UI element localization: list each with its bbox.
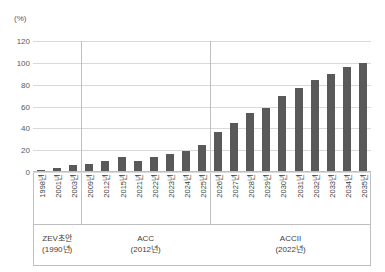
bar [198, 145, 206, 172]
y-axis-tick-label: 60 [4, 102, 30, 111]
x-axis-tick-label: 2026년 [213, 174, 224, 198]
x-label-slot: 2023년 [162, 173, 178, 224]
group-year: (2022년) [275, 245, 305, 256]
x-axis-tick-label: 2001년 [52, 174, 63, 198]
bar-slot [258, 41, 274, 172]
chart-container: (%) 020406080100120 1998년2001년2003년2009년… [0, 0, 385, 272]
x-label-slot: 2030년 [274, 173, 290, 224]
x-axis-tick-label: 2024년 [180, 174, 191, 198]
x-axis-tick-label: 2023년 [164, 174, 175, 198]
x-axis-tick-label: 2022년 [148, 174, 159, 198]
x-label-slot: 2024년 [178, 173, 194, 224]
bar-series [33, 41, 371, 172]
bar-slot [274, 41, 290, 172]
x-axis-tick-label: 2012년 [100, 174, 111, 198]
bar-slot [113, 41, 129, 172]
group-divider-lower [81, 173, 82, 224]
bar [246, 113, 254, 172]
bar-slot [65, 41, 81, 172]
x-axis-tick-label: 1998년 [36, 174, 47, 198]
bar [262, 108, 270, 172]
bar-slot [130, 41, 146, 172]
x-axis-tick-label: 2009년 [84, 174, 95, 198]
x-label-slot: 2009년 [81, 173, 97, 224]
x-axis-tick-label: 2027년 [229, 174, 240, 198]
unit-label: (%) [14, 14, 26, 23]
bar [230, 123, 238, 172]
y-axis-tick-label: 20 [4, 146, 30, 155]
bar [182, 151, 190, 172]
y-axis-tick-label: 0 [4, 168, 30, 177]
x-label-slot: 2032년 [307, 173, 323, 224]
x-label-slot: 2033년 [323, 173, 339, 224]
x-label-slot: 2015년 [113, 173, 129, 224]
group-name: ACC [137, 234, 154, 245]
bar-slot [33, 41, 49, 172]
x-axis-tick-label: 2028년 [245, 174, 256, 198]
x-axis-tick-label: 2029년 [261, 174, 272, 198]
bar-slot [178, 41, 194, 172]
bar-slot [291, 41, 307, 172]
bar-slot [226, 41, 242, 172]
x-label-slot: 2012년 [97, 173, 113, 224]
bar [343, 67, 351, 172]
bar-slot [81, 41, 97, 172]
bar-slot [242, 41, 258, 172]
x-axis-tick-label: 2032년 [309, 174, 320, 198]
bar-slot [162, 41, 178, 172]
plot-area [33, 41, 371, 172]
bar-slot [146, 41, 162, 172]
x-axis-tick-label: 2031년 [293, 174, 304, 198]
x-axis-tick-label: 2015년 [116, 174, 127, 198]
x-axis-tick-label: 2003년 [68, 174, 79, 198]
group-year: (1990년) [42, 245, 72, 256]
y-axis-tick-labels: 020406080100120 [0, 41, 30, 172]
x-label-slot: 2021년 [130, 173, 146, 224]
x-label-slot: 2034년 [339, 173, 355, 224]
y-axis-tick-label: 120 [4, 37, 30, 46]
bar [118, 157, 126, 172]
x-axis-tick-label: 2025년 [196, 174, 207, 198]
x-label-slot: 2025년 [194, 173, 210, 224]
bar-slot [307, 41, 323, 172]
group-divider [210, 41, 211, 172]
x-label-slot: 2027년 [226, 173, 242, 224]
x-axis-tick-label: 2021년 [132, 174, 143, 198]
y-axis-tick-label: 100 [4, 58, 30, 67]
x-label-slot: 2028년 [242, 173, 258, 224]
bar [295, 88, 303, 172]
group-label-2: ACC(2012년) [81, 224, 210, 266]
y-axis-tick-label: 80 [4, 80, 30, 89]
x-axis-line [33, 171, 371, 172]
bar-slot [355, 41, 371, 172]
group-name: ACCII [280, 234, 301, 245]
bar-slot [210, 41, 226, 172]
bar-slot [194, 41, 210, 172]
bar-slot [323, 41, 339, 172]
x-axis-tick-label: 2034년 [341, 174, 352, 198]
x-label-slot: 2022년 [146, 173, 162, 224]
group-divider [81, 41, 82, 172]
x-axis-tick-label: 2030년 [277, 174, 288, 198]
bar-slot [339, 41, 355, 172]
bar [278, 96, 286, 172]
x-axis-labels: 1998년2001년2003년2009년2012년2015년2021년2022년… [33, 173, 371, 224]
group-year: (2012년) [131, 245, 161, 256]
group-divider-lower [210, 173, 211, 224]
group-label-1: ZEV초안(1990년) [33, 224, 81, 266]
bar [166, 154, 174, 172]
x-label-slot: 2003년 [65, 173, 81, 224]
y-axis-tick-label: 40 [4, 124, 30, 133]
bar [327, 74, 335, 172]
bar-slot [49, 41, 65, 172]
x-label-slot: 2029년 [258, 173, 274, 224]
x-axis-tick-label: 2033년 [325, 174, 336, 198]
x-label-slot: 1998년 [33, 173, 49, 224]
x-label-slot: 2026년 [210, 173, 226, 224]
x-label-slot: 2035년 [355, 173, 371, 224]
x-label-slot: 2001년 [49, 173, 65, 224]
bar [214, 132, 222, 172]
bar [150, 157, 158, 172]
x-label-slot: 2031년 [291, 173, 307, 224]
bar [311, 80, 319, 172]
